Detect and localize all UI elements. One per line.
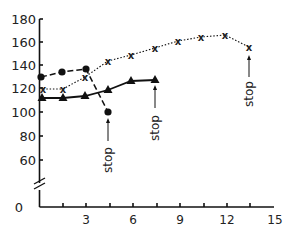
circle-marker-icon	[82, 65, 89, 72]
series-circles	[37, 65, 111, 115]
x-marker-icon: x	[152, 43, 159, 54]
stop-annotation-triangles: stop	[148, 85, 162, 141]
x-tick-label: 12	[219, 213, 234, 227]
series-crosses: x x x x x x x x x x	[40, 30, 253, 95]
x-axis	[40, 203, 275, 207]
stop-label: stop	[101, 147, 115, 173]
y-tick-label: 140	[11, 58, 36, 73]
y-tick-label: 80	[19, 129, 36, 144]
x-tick-label: 9	[176, 213, 184, 227]
y-tick-label: 120	[11, 81, 36, 96]
y-tick-label: 180	[11, 12, 36, 27]
arrow-up-icon	[153, 85, 157, 90]
y-tick-label: 160	[11, 35, 36, 50]
x-marker-icon: x	[222, 30, 229, 41]
x-marker-icon: x	[246, 42, 253, 53]
y-tick-label: 60	[19, 153, 36, 168]
stop-label: stop	[148, 115, 162, 141]
stop-annotation-circles: stop	[101, 118, 115, 173]
series-triangles	[38, 75, 160, 101]
line-chart: 180 160 140 120 100 80 60 0 3 6 9 12 15 …	[0, 0, 293, 234]
circle-marker-icon	[104, 108, 111, 115]
triangle-marker-icon	[151, 75, 160, 83]
x-tick-label: 15	[267, 213, 282, 227]
x-marker-icon: x	[105, 56, 112, 67]
x-marker-icon: x	[60, 84, 67, 95]
circle-marker-icon	[58, 68, 65, 75]
y-tick-label: 0	[15, 200, 23, 215]
y-tick-label: 100	[11, 105, 36, 120]
arrow-up-icon	[106, 118, 110, 123]
arrow-up-icon	[247, 55, 251, 60]
x-marker-icon: x	[40, 84, 47, 95]
stop-annotation-crosses: stop	[242, 55, 256, 107]
x-marker-icon: x	[175, 36, 182, 47]
x-marker-icon: x	[128, 50, 135, 61]
stop-label: stop	[242, 81, 256, 107]
x-tick-label: 6	[129, 213, 137, 227]
x-marker-icon: x	[198, 32, 205, 43]
x-tick-label: 3	[82, 213, 90, 227]
circle-marker-icon	[37, 73, 44, 80]
